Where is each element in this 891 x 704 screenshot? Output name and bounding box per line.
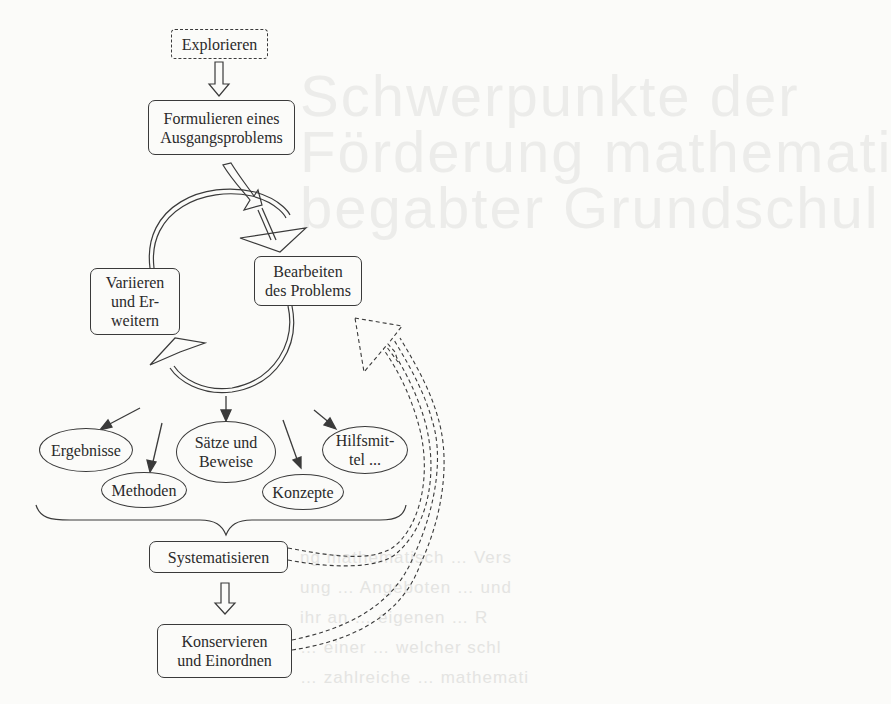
- node-label: Formulieren eines Ausgangsproblems: [160, 109, 283, 147]
- node-label: Konservieren und Einordnen: [177, 632, 272, 670]
- node-label: Systematisieren: [168, 548, 269, 567]
- curved-hollow-arrow-icon: [223, 163, 262, 210]
- outcome-label: Hilfsmit- tel ...: [336, 431, 395, 469]
- outcome-label: Konzepte: [272, 483, 333, 502]
- node-konservieren-einordnen: Konservieren und Einordnen: [157, 624, 292, 678]
- outcome-konzepte: Konzepte: [262, 474, 344, 510]
- outcome-ergebnisse: Ergebnisse: [39, 428, 133, 472]
- hollow-down-arrow-icon: [209, 62, 229, 96]
- node-formulieren-ausgangsproblem: Formulieren eines Ausgangsproblems: [148, 100, 295, 155]
- outcome-label: Methoden: [112, 481, 177, 500]
- outcome-saetze-beweise: Sätze und Beweise: [176, 421, 276, 483]
- node-label: Explorieren: [182, 35, 258, 54]
- cycle-arrowhead-icon: [150, 338, 205, 365]
- outcome-label: Sätze und Beweise: [195, 433, 258, 471]
- feedback-arrowhead-icon: [355, 318, 402, 372]
- grouping-brace: [36, 505, 406, 535]
- outcome-methoden: Methoden: [101, 472, 187, 508]
- node-label: Variieren und Er- weitern: [106, 273, 165, 330]
- node-systematisieren: Systematisieren: [149, 541, 288, 573]
- node-bearbeiten-problem: Bearbeiten des Problems: [254, 256, 362, 306]
- outcome-label: Ergebnisse: [51, 441, 121, 460]
- node-explorieren: Explorieren: [171, 29, 268, 59]
- hollow-down-arrow-icon: [215, 583, 235, 614]
- node-variieren-erweitern: Variieren und Er- weitern: [90, 268, 180, 335]
- node-label: Bearbeiten des Problems: [265, 262, 351, 300]
- cycle-arrowhead-icon: [240, 228, 306, 252]
- outcome-hilfsmittel: Hilfsmit- tel ...: [322, 426, 408, 474]
